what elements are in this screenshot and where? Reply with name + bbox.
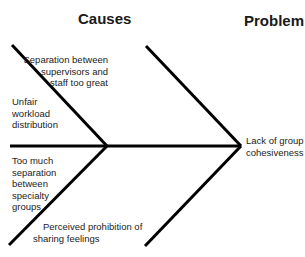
cause-label-sharing-feelings: Perceived prohibition of sharing feeling… <box>33 221 142 244</box>
causes-heading: Causes <box>78 10 131 27</box>
cause-label-supervisor-separation: Separation between supervisors and staff… <box>20 54 108 89</box>
right-upper-bone <box>146 46 241 146</box>
cause-label-specialty-separation: Too much separation between specialty gr… <box>12 155 56 213</box>
problem-label: Lack of group cohesiveness <box>246 135 304 158</box>
cause-label-unfair-workload: Unfair workload distribution <box>12 96 58 131</box>
problem-heading: Problem <box>244 12 304 29</box>
right-lower-bone <box>145 146 241 246</box>
